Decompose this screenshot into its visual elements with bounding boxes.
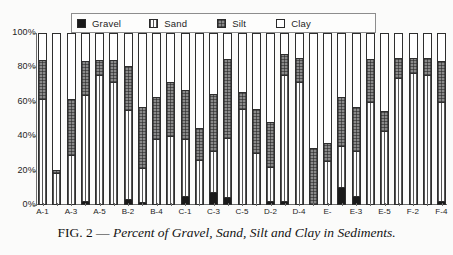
- bar-segment-silt: [324, 143, 331, 162]
- bar-segment-sand: [53, 173, 60, 204]
- x-axis-tick-mark: [100, 203, 101, 206]
- bar-segment-clay: [410, 34, 417, 58]
- stacked-bar: [67, 33, 76, 205]
- x-axis-tick-label: C-1: [178, 207, 191, 216]
- x-axis-tick-label: E-: [323, 207, 331, 216]
- bar-segment-sand: [110, 82, 117, 204]
- bar-segment-clay: [196, 34, 203, 127]
- bar-segment-clay: [110, 34, 117, 60]
- bar-series-group: [37, 33, 447, 205]
- bar-segment-clay: [167, 34, 174, 82]
- bar-segment-clay: [68, 34, 75, 99]
- bar-segment-silt: [424, 58, 431, 75]
- x-axis-tick-mark: [342, 203, 343, 206]
- x-axis-tick-mark: [399, 203, 400, 206]
- stacked-bar: [52, 33, 61, 205]
- stacked-bar: [366, 33, 375, 205]
- stacked-bar: [181, 33, 190, 205]
- bar-segment-gravel: [338, 187, 345, 204]
- bar-segment-sand: [296, 82, 303, 204]
- x-axis-tick-mark: [171, 203, 172, 206]
- x-axis-tick-mark: [57, 203, 58, 206]
- legend-item-clay: Clay: [276, 14, 311, 32]
- x-axis-tick-label: C-3: [207, 207, 220, 216]
- bar-segment-sand: [196, 160, 203, 204]
- bar-segment-sand: [139, 168, 146, 202]
- x-axis-tick-mark: [413, 203, 414, 206]
- x-axis-tick-mark: [114, 203, 115, 206]
- stacked-bar: [238, 33, 247, 205]
- bar-segment-silt: [110, 60, 117, 82]
- bar-segment-silt: [310, 148, 317, 204]
- stacked-bar: [323, 33, 332, 205]
- legend-label-silt: Silt: [232, 18, 246, 29]
- bar-segment-clay: [96, 34, 103, 60]
- legend-item-gravel: Gravel: [77, 14, 121, 32]
- x-axis-tick-mark: [214, 203, 215, 206]
- x-axis-tick-mark: [313, 203, 314, 206]
- figure-caption: FIG. 2 — Percent of Gravel, Sand, Silt a…: [0, 225, 453, 241]
- x-axis-tick-label: A-5: [93, 207, 106, 216]
- bar-segment-clay: [53, 34, 60, 170]
- gravel-swatch-icon: [77, 19, 86, 28]
- stacked-bar: [124, 33, 133, 205]
- stacked-bar: [352, 33, 361, 205]
- y-axis-tick-mark: [33, 205, 37, 206]
- bar-segment-sand: [281, 75, 288, 201]
- bar-segment-clay: [395, 34, 402, 58]
- bar-segment-clay: [182, 34, 189, 90]
- bar-segment-clay: [153, 34, 160, 97]
- sand-swatch-icon: [149, 19, 158, 28]
- bar-segment-silt: [239, 92, 246, 109]
- bar-segment-sand: [381, 131, 388, 204]
- stacked-bar: [380, 33, 389, 205]
- stacked-bar: [152, 33, 161, 205]
- bar-segment-sand: [153, 139, 160, 204]
- plot-area: 100%80%60%40%20%0%: [36, 33, 447, 205]
- bar-segment-silt: [196, 128, 203, 160]
- bar-segment-silt: [82, 61, 89, 95]
- legend-label-sand: Sand: [164, 18, 187, 29]
- stacked-bar: [280, 33, 289, 205]
- bar-segment-sand: [182, 139, 189, 195]
- stacked-bar: [195, 33, 204, 205]
- x-axis-tick-mark: [285, 203, 286, 206]
- bar-segment-silt: [139, 107, 146, 168]
- stacked-bar: [423, 33, 432, 205]
- x-axis-tick-mark: [427, 203, 428, 206]
- bar-segment-clay: [267, 34, 274, 122]
- bar-segment-sand: [253, 153, 260, 204]
- bar-segment-sand: [267, 167, 274, 201]
- x-axis-tick-label: B-2: [122, 207, 135, 216]
- legend-label-clay: Clay: [291, 18, 311, 29]
- bar-segment-sand: [438, 102, 445, 201]
- bar-segment-silt: [338, 97, 345, 146]
- bar-segment-sand: [167, 136, 174, 204]
- bar-segment-silt: [296, 58, 303, 82]
- bar-segment-clay: [253, 34, 260, 109]
- y-axis-tick-label: 0%: [2, 199, 36, 210]
- bar-segment-clay: [367, 34, 374, 60]
- stacked-bar: [223, 33, 232, 205]
- bar-segment-sand: [82, 95, 89, 200]
- y-axis-tick-label: 40%: [2, 130, 36, 141]
- bar-segment-clay: [438, 34, 445, 61]
- bar-segment-sand: [39, 99, 46, 204]
- bar-segment-sand: [410, 73, 417, 204]
- x-axis-tick-mark: [185, 203, 186, 206]
- stacked-bar: [409, 33, 418, 205]
- bar-segment-clay: [324, 34, 331, 143]
- x-axis-tick-label: D-4: [292, 207, 305, 216]
- bar-segment-sand: [239, 109, 246, 204]
- bar-segment-silt: [125, 66, 132, 110]
- caption-text: Percent of Gravel, Sand, Silt and Clay i…: [113, 225, 396, 240]
- bar-segment-silt: [210, 94, 217, 152]
- stacked-bar: [109, 33, 118, 205]
- y-axis-tick-label: 60%: [2, 96, 36, 107]
- x-axis-tick-label: E-3: [350, 207, 363, 216]
- bar-segment-silt: [182, 90, 189, 139]
- stacked-bar: [266, 33, 275, 205]
- clay-swatch-icon: [276, 19, 285, 28]
- x-axis-tick-mark: [328, 203, 329, 206]
- bar-segment-sand: [96, 75, 103, 204]
